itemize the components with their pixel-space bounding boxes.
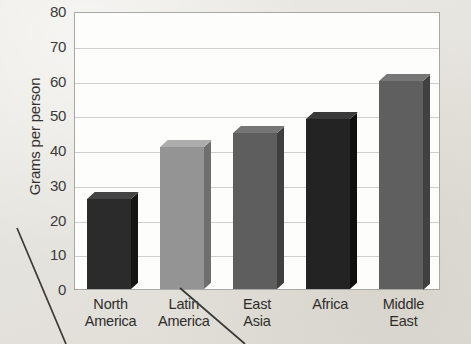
y-axis-title: Grams per person [26, 57, 43, 217]
plot-area [74, 12, 440, 290]
gridline [75, 48, 439, 49]
bar-top-face [379, 74, 431, 81]
category-label-line: East [353, 313, 453, 330]
bar-front-face [87, 199, 131, 289]
category-label-line: Middle [353, 296, 453, 313]
y-axis-tick-label: 80 [26, 3, 66, 20]
bar-side-face [204, 140, 211, 289]
category-label-line: Asia [207, 313, 307, 330]
bar-top-face [306, 112, 358, 119]
y-axis-tick-label: 10 [26, 246, 66, 263]
bar [379, 81, 423, 290]
bar [87, 199, 131, 289]
bar-front-face [233, 133, 277, 289]
x-axis-category-label: MiddleEast [353, 296, 453, 330]
chart-page: 01020304050607080 Grams per person North… [0, 0, 471, 344]
bar [160, 147, 204, 289]
bar-front-face [379, 81, 423, 290]
bar-top-face [233, 126, 285, 133]
y-axis-tick-label: 70 [26, 38, 66, 55]
bar-front-face [306, 119, 350, 289]
bar [306, 119, 350, 289]
bar [233, 133, 277, 289]
bar-top-face [87, 192, 139, 199]
bar-side-face [131, 192, 138, 289]
bar-side-face [277, 126, 284, 289]
bar-side-face [350, 112, 357, 289]
bar-top-face [160, 140, 212, 147]
bar-side-face [423, 74, 430, 289]
bar-front-face [160, 147, 204, 289]
